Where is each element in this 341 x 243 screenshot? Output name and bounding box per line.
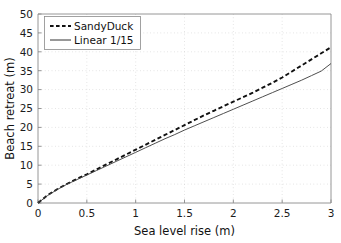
x-axis-title: Sea level rise (m)	[134, 224, 235, 238]
y-tick-label: 30	[20, 83, 33, 95]
x-tick-label: 2	[230, 207, 237, 219]
line-chart: 00.511.522.53 05101520253035404550 Sandy…	[0, 0, 341, 243]
x-tick-label: 3	[328, 207, 335, 219]
y-axis-title: Beach retreat (m)	[3, 57, 17, 159]
y-tick-label: 45	[20, 27, 33, 39]
figure-canvas: 00.511.522.53 05101520253035404550 Sandy…	[0, 0, 341, 243]
y-tick-label: 15	[20, 140, 33, 152]
y-tick-label: 50	[20, 8, 33, 20]
y-tick-label: 10	[20, 159, 33, 171]
y-tick-label: 35	[20, 65, 33, 77]
legend-label-sandyduck: SandyDuck	[74, 20, 134, 32]
y-tick-label: 5	[26, 178, 33, 190]
legend[interactable]: SandyDuck Linear 1/15	[45, 17, 141, 50]
x-tick-label: 2.5	[274, 207, 291, 219]
x-axis-ticks: 00.511.522.53	[35, 200, 335, 220]
y-tick-label: 40	[20, 46, 33, 58]
x-tick-label: 0.5	[78, 207, 95, 219]
x-tick-label: 0	[35, 207, 42, 219]
legend-label-linear: Linear 1/15	[74, 34, 134, 46]
x-tick-label: 1	[132, 207, 139, 219]
y-tick-label: 20	[20, 121, 33, 133]
y-tick-label: 25	[20, 102, 33, 114]
y-tick-label: 0	[26, 197, 33, 209]
x-tick-label: 1.5	[176, 207, 193, 219]
